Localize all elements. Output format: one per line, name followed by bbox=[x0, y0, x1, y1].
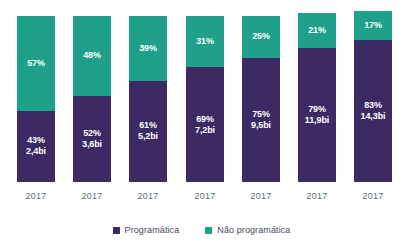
x-axis-tick-label: 2017 bbox=[129, 191, 167, 201]
bar-segment-programatica[interactable]: 79%11,9bi bbox=[298, 48, 336, 182]
x-axis-tick-label: 2017 bbox=[298, 191, 336, 201]
x-axis-tick-label: 2017 bbox=[17, 191, 55, 201]
bar-segment-nao-programatica[interactable]: 25% bbox=[242, 16, 280, 58]
bar-segment-nao-programatica[interactable]: 39% bbox=[129, 16, 167, 81]
bar-segment-nao-programatica[interactable]: 57% bbox=[17, 16, 55, 111]
bar-group[interactable]: 21%79%11,9bi bbox=[298, 13, 336, 182]
bar-group[interactable]: 31%69%7,2bi bbox=[186, 16, 224, 182]
bar-segment-label: 21% bbox=[308, 25, 326, 36]
bar-group[interactable]: 17%83%14,3bi bbox=[354, 11, 392, 182]
legend-swatch-icon-nao-programatica bbox=[205, 227, 212, 234]
bar-segment-label: 57% bbox=[27, 58, 45, 69]
bar-segment-nao-programatica[interactable]: 21% bbox=[298, 13, 336, 48]
x-axis-tick-label: 2017 bbox=[186, 191, 224, 201]
x-axis-tick-label: 2017 bbox=[73, 191, 111, 201]
stacked-bar: 21%79%11,9bi bbox=[298, 13, 336, 182]
bar-group[interactable]: 25%75%9,5bi bbox=[242, 16, 280, 182]
x-axis-tick-label: 2017 bbox=[354, 191, 392, 201]
bar-segment-label: 52%3,6bi bbox=[82, 128, 102, 150]
x-axis-tick-label: 2017 bbox=[242, 191, 280, 201]
bar-segment-label: 17% bbox=[364, 20, 382, 31]
bar-segment-nao-programatica[interactable]: 31% bbox=[186, 16, 224, 67]
bar-segment-label: 39% bbox=[139, 43, 157, 54]
bar-segment-programatica[interactable]: 83%14,3bi bbox=[354, 40, 392, 182]
bar-segment-label: 75%9,5bi bbox=[251, 109, 271, 131]
bar-segment-label: 61%5,2bi bbox=[138, 120, 158, 142]
bar-segment-label: 43%2,4bi bbox=[26, 135, 46, 157]
stacked-bar: 31%69%7,2bi bbox=[186, 16, 224, 182]
stacked-bar: 39%61%5,2bi bbox=[129, 16, 167, 182]
stacked-bar: 57%43%2,4bi bbox=[17, 16, 55, 182]
legend-label-nao-programatica: Não programática bbox=[217, 225, 290, 235]
bar-group[interactable]: 39%61%5,2bi bbox=[129, 16, 167, 182]
bar-group[interactable]: 57%43%2,4bi bbox=[17, 16, 55, 182]
bar-segment-programatica[interactable]: 69%7,2bi bbox=[186, 67, 224, 182]
x-axis: 2017201720172017201720172017 bbox=[0, 182, 403, 210]
bar-segment-label: 48% bbox=[83, 50, 101, 61]
bar-segment-label: 31% bbox=[196, 36, 214, 47]
legend-item-nao-programatica[interactable]: Não programática bbox=[205, 225, 290, 235]
bar-segment-programatica[interactable]: 52%3,6bi bbox=[73, 96, 111, 182]
legend-label-programatica: Programática bbox=[125, 225, 180, 235]
bar-segment-nao-programatica[interactable]: 48% bbox=[73, 16, 111, 96]
bar-segment-label: 25% bbox=[252, 31, 270, 42]
bar-segment-programatica[interactable]: 43%2,4bi bbox=[17, 111, 55, 182]
legend-swatch-icon-programatica bbox=[113, 227, 120, 234]
bar-segment-programatica[interactable]: 61%5,2bi bbox=[129, 81, 167, 182]
bar-segment-programatica[interactable]: 75%9,5bi bbox=[242, 58, 280, 183]
bar-group[interactable]: 48%52%3,6bi bbox=[73, 16, 111, 182]
bar-segment-nao-programatica[interactable]: 17% bbox=[354, 11, 392, 40]
bar-segment-label: 83%14,3bi bbox=[361, 100, 386, 122]
legend-item-programatica[interactable]: Programática bbox=[113, 225, 180, 235]
stacked-bar: 25%75%9,5bi bbox=[242, 16, 280, 182]
stacked-bar: 48%52%3,6bi bbox=[73, 16, 111, 182]
chart-legend: Programática Não programática bbox=[0, 222, 403, 238]
plot-area: 57%43%2,4bi48%52%3,6bi39%61%5,2bi31%69%7… bbox=[0, 0, 403, 182]
stacked-bar: 17%83%14,3bi bbox=[354, 11, 392, 182]
bar-segment-label: 79%11,9bi bbox=[305, 104, 329, 126]
bar-segment-label: 69%7,2bi bbox=[195, 114, 215, 136]
stacked-bar-chart: 57%43%2,4bi48%52%3,6bi39%61%5,2bi31%69%7… bbox=[0, 0, 403, 246]
